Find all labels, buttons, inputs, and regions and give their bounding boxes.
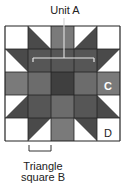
triangle-square-cell — [74, 26, 97, 49]
square-cell-dark — [51, 49, 74, 72]
cell-fill — [51, 49, 74, 72]
cell-fill — [74, 72, 97, 95]
cell-fill — [28, 49, 51, 72]
cell-fill — [51, 26, 74, 49]
cell-fill — [51, 95, 74, 118]
triangle-square-cell — [97, 95, 120, 118]
cell-fill — [5, 26, 28, 49]
square-cell-medium — [28, 72, 51, 95]
triangle-square-cell — [97, 49, 120, 72]
cell-fill — [28, 95, 51, 118]
cell-d — [5, 118, 28, 141]
cell-c — [51, 118, 74, 141]
cell-fill — [5, 118, 28, 141]
cell-c — [51, 26, 74, 49]
cell-fill — [97, 26, 120, 49]
square-cell-dark — [28, 95, 51, 118]
triangle-square-cell — [28, 118, 51, 141]
triangle-square-b-line2: square B — [14, 172, 72, 183]
triangle-square-cell — [5, 49, 28, 72]
square-cell-dark — [74, 95, 97, 118]
cell-c-label: C — [104, 80, 112, 92]
cell-fill — [51, 72, 74, 95]
cell-c — [5, 72, 28, 95]
cell-d — [97, 26, 120, 49]
quilt-block-diagram: C D — [0, 0, 128, 186]
cell-fill — [51, 118, 74, 141]
square-cell-medium — [51, 95, 74, 118]
cell-fill — [28, 72, 51, 95]
cell-fill — [74, 95, 97, 118]
square-cell-medium — [74, 72, 97, 95]
triangle-square-b-label: Triangle square B — [14, 161, 72, 183]
triangle-square-cell — [5, 95, 28, 118]
quilt-grid — [5, 26, 120, 141]
cell-fill — [5, 72, 28, 95]
triangle-square-b-bracket — [29, 145, 51, 151]
square-cell-center — [51, 72, 74, 95]
triangle-square-cell — [28, 26, 51, 49]
cell-d — [5, 26, 28, 49]
square-cell-dark — [28, 49, 51, 72]
cell-d-label: D — [104, 127, 112, 139]
triangle-square-cell — [74, 118, 97, 141]
